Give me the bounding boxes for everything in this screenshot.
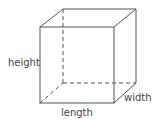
height-label: height bbox=[8, 57, 40, 68]
front-face bbox=[40, 27, 114, 103]
length-label: length bbox=[61, 107, 93, 118]
width-label: width bbox=[124, 92, 152, 103]
hidden-bottom-left-connector bbox=[40, 83, 63, 103]
cube-diagram: height length width bbox=[0, 0, 163, 121]
top-right-connector bbox=[114, 9, 136, 27]
top-left-connector bbox=[40, 9, 63, 27]
